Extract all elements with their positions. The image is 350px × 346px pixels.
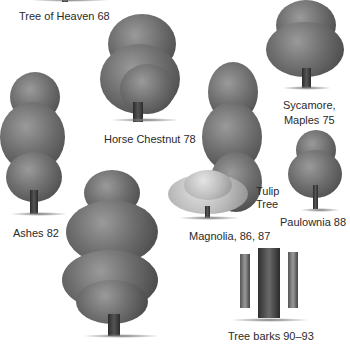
magnolia-illustration — [168, 170, 248, 222]
ashes-label: Ashes 82 — [13, 226, 59, 240]
tree-barks-label: Tree barks 90–93 — [228, 329, 314, 343]
tree-of-heaven-label: Tree of Heaven 68 — [19, 9, 110, 23]
sycamore-maples-label: Sycamore, Maples 75 — [283, 98, 336, 128]
paulownia-label: Paulownia 88 — [280, 215, 346, 229]
sycamore-maples-illustration — [266, 0, 346, 92]
tree-of-heaven-illustration — [30, 0, 110, 4]
paulownia-illustration — [288, 130, 343, 212]
tree-barks-illustration — [226, 246, 312, 326]
magnolia-label: Magnolia, 86, 87 — [189, 229, 270, 243]
large-tree-illustration — [62, 170, 162, 346]
ashes-illustration — [0, 72, 70, 222]
horse-chestnut-illustration — [100, 14, 180, 124]
horse-chestnut-label: Horse Chestnut 78 — [104, 132, 196, 146]
tulip-tree-label: Tulip Tree — [256, 185, 279, 211]
